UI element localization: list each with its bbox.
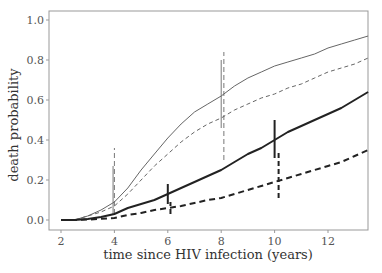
x-axis-ticks: 24681012 bbox=[58, 230, 336, 248]
series-line bbox=[61, 150, 368, 220]
series-line bbox=[61, 36, 368, 220]
y-tick-label: 0.0 bbox=[27, 214, 45, 227]
x-tick-label: 12 bbox=[321, 235, 335, 248]
series-lines bbox=[61, 36, 368, 220]
y-axis-ticks: 0.00.20.40.60.81.0 bbox=[27, 14, 50, 227]
y-tick-label: 0.2 bbox=[27, 174, 45, 187]
survival-chart: 0.00.20.40.60.81.0 24681012 time since H… bbox=[0, 0, 382, 273]
y-tick-label: 1.0 bbox=[27, 14, 45, 27]
series-line bbox=[61, 58, 368, 220]
plot-frame bbox=[49, 11, 368, 230]
y-tick-label: 0.8 bbox=[27, 54, 45, 67]
y-tick-label: 0.6 bbox=[27, 94, 45, 107]
confidence-bars bbox=[113, 52, 279, 214]
y-tick-label: 0.4 bbox=[27, 134, 45, 147]
series-line bbox=[61, 92, 368, 220]
x-tick-label: 2 bbox=[58, 235, 65, 248]
x-axis-label: time since HIV infection (years) bbox=[103, 247, 313, 262]
y-axis-label: death probability bbox=[6, 68, 21, 182]
